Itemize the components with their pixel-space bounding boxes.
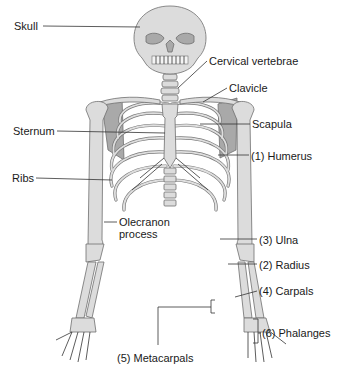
label-radius: (2) Radius — [259, 259, 310, 271]
sternum-bone — [162, 104, 178, 168]
label-humerus: (1) Humerus — [251, 150, 312, 162]
skull-bone — [134, 6, 206, 74]
label-phalanges: (6) Phalanges — [262, 327, 331, 339]
label-clavicle: Clavicle — [229, 82, 268, 94]
label-sternum: Sternum — [13, 125, 55, 137]
label-metacarpals: (5) Metacarpals — [117, 352, 193, 364]
label-skull: Skull — [14, 20, 38, 32]
label-ribs: Ribs — [12, 172, 34, 184]
label-olecranon-process: process — [119, 228, 158, 240]
label-carpals: (4) Carpals — [259, 285, 313, 297]
skeleton-diagram: Skull Cervical vertebrae Clavicle Sternu… — [0, 0, 343, 374]
label-olecranon: Olecranon — [119, 216, 170, 228]
label-ulna: (3) Ulna — [259, 234, 298, 246]
label-cervical-vertebrae: Cervical vertebrae — [209, 55, 298, 67]
label-scapula: Scapula — [252, 118, 292, 130]
